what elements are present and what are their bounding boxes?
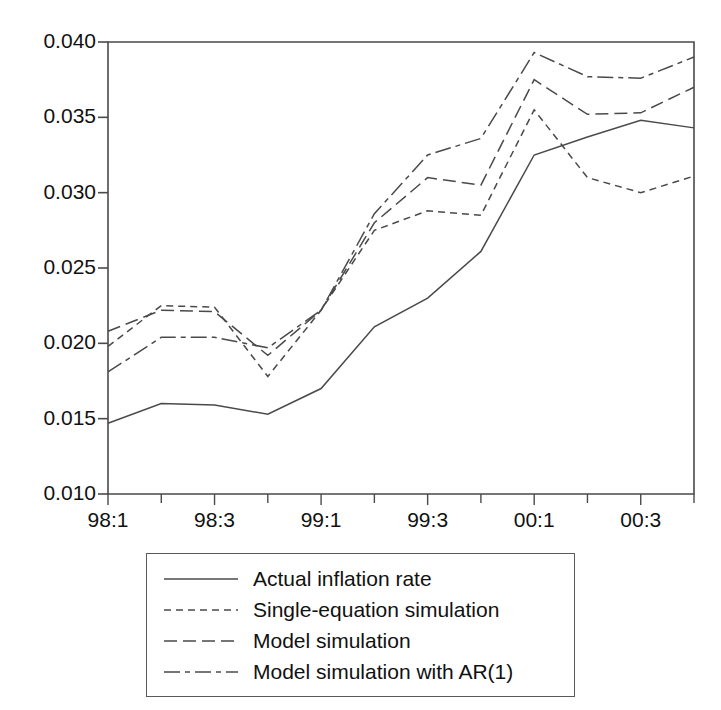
legend-item-label: Single-equation simulation (253, 599, 499, 620)
legend-item-label: Actual inflation rate (253, 568, 432, 589)
plot-area: 0.0100.0150.0200.0250.0300.0350.040 98:1… (0, 0, 721, 540)
y-axis-tick-label: 0.035 (6, 104, 96, 128)
y-axis-tick-label: 0.015 (6, 406, 96, 430)
series-line-0 (108, 120, 694, 423)
inflation-simulation-chart: 0.0100.0150.0200.0250.0300.0350.040 98:1… (0, 0, 721, 710)
x-axis-tick-label: 99:1 (276, 508, 366, 532)
series-line-3 (108, 53, 694, 372)
legend-item: Model simulation (147, 625, 574, 656)
legend-line-sample-icon (163, 572, 239, 586)
series-line-2 (108, 80, 694, 356)
y-axis-tick-label: 0.020 (6, 330, 96, 354)
legend-item: Model simulation with AR(1) (147, 656, 574, 687)
x-axis-tick-label: 99:3 (383, 508, 473, 532)
y-axis-tick-label: 0.025 (6, 255, 96, 279)
chart-legend: Actual inflation rateSingle-equation sim… (146, 553, 575, 697)
x-axis-tick-label: 00:1 (489, 508, 579, 532)
plot-svg (0, 0, 721, 540)
x-axis-tick-label: 98:3 (170, 508, 260, 532)
legend-item: Actual inflation rate (147, 563, 574, 594)
series-line-1 (108, 110, 694, 377)
legend-item-label: Model simulation with AR(1) (253, 661, 513, 682)
legend-line-sample-icon (163, 603, 239, 617)
y-axis-tick-label: 0.010 (6, 481, 96, 505)
x-axis-tick-label: 00:3 (596, 508, 686, 532)
legend-item-label: Model simulation (253, 630, 411, 651)
x-axis-tick-label: 98:1 (63, 508, 153, 532)
legend-item: Single-equation simulation (147, 594, 574, 625)
legend-line-sample-icon (163, 634, 239, 648)
plot-frame (108, 42, 694, 494)
legend-line-sample-icon (163, 665, 239, 679)
y-axis-tick-label: 0.040 (6, 29, 96, 53)
y-axis-tick-label: 0.030 (6, 180, 96, 204)
